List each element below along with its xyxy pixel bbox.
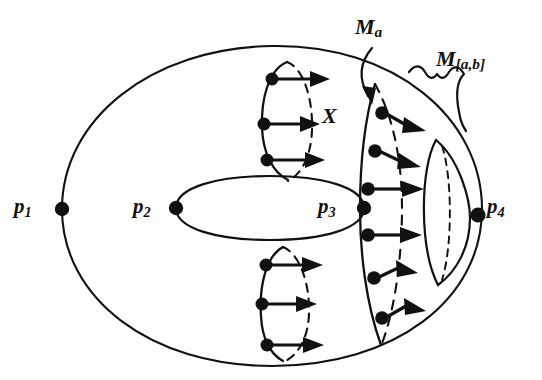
label-Ma-sub: a (375, 23, 383, 40)
label-p1-sub: 1 (25, 204, 32, 220)
label-p4-sub: 4 (498, 204, 505, 220)
field-dot (375, 311, 389, 325)
field-dot (368, 144, 382, 158)
label-p1-base: p (14, 194, 25, 218)
field-dot (266, 73, 279, 86)
vector-arrows-lower-loop (262, 257, 324, 353)
vector-arrow (266, 257, 323, 273)
vector-arrow (370, 181, 424, 197)
torus-outer-boundary (62, 46, 482, 366)
field-dot (258, 118, 271, 131)
label-X-base: X (322, 103, 337, 128)
label-p3-base: p (318, 194, 329, 218)
label-Ma-base: M (355, 14, 375, 39)
label-p4-base: p (487, 194, 498, 218)
label-Mab-sub: [a,b] (456, 55, 486, 72)
right-cap-front-arc (424, 140, 438, 285)
label-X: X (322, 105, 337, 127)
Ma-curve-dots (361, 106, 389, 325)
vector-arrow (267, 337, 324, 353)
label-Ma: Ma (355, 16, 382, 40)
vector-arrow (267, 152, 325, 168)
torus-vector-field-figure: p1 p2 p3 p4 Ma M[a,b] X (0, 0, 542, 380)
vector-arrows-Ma-curve (370, 113, 426, 318)
label-p2-base: p (133, 194, 144, 218)
field-dot (256, 298, 269, 311)
label-Mab-base: M (436, 46, 456, 71)
label-p2-sub: 2 (144, 204, 151, 220)
label-p2: p2 (133, 196, 151, 219)
field-dot (261, 154, 274, 167)
vector-arrows-upper-loop (264, 71, 330, 168)
label-p1: p1 (14, 196, 32, 219)
right-cap-outer-arc (436, 140, 470, 285)
right-cap-back-dashed (442, 146, 450, 280)
vector-arrow (377, 260, 418, 278)
field-dot (367, 271, 381, 285)
marked-point-p4 (470, 207, 485, 222)
Ma-pointer-arrowhead (362, 86, 376, 105)
Mab-brace (409, 66, 466, 131)
field-dot (361, 182, 375, 196)
Ma-level-curve-back-dashed (375, 84, 402, 346)
vector-arrow (370, 227, 422, 243)
label-p3: p3 (318, 196, 336, 219)
label-Mab: M[a,b] (436, 48, 485, 72)
field-dot (375, 106, 389, 120)
field-dot (261, 339, 274, 352)
label-p3-sub: 3 (329, 204, 336, 220)
label-p4: p4 (487, 196, 505, 219)
vector-arrow (379, 151, 421, 169)
marked-point-p3 (357, 201, 371, 215)
marked-point-p2 (169, 201, 183, 215)
field-dot (260, 259, 273, 272)
marked-point-p1 (55, 202, 69, 216)
field-dot (361, 228, 375, 242)
